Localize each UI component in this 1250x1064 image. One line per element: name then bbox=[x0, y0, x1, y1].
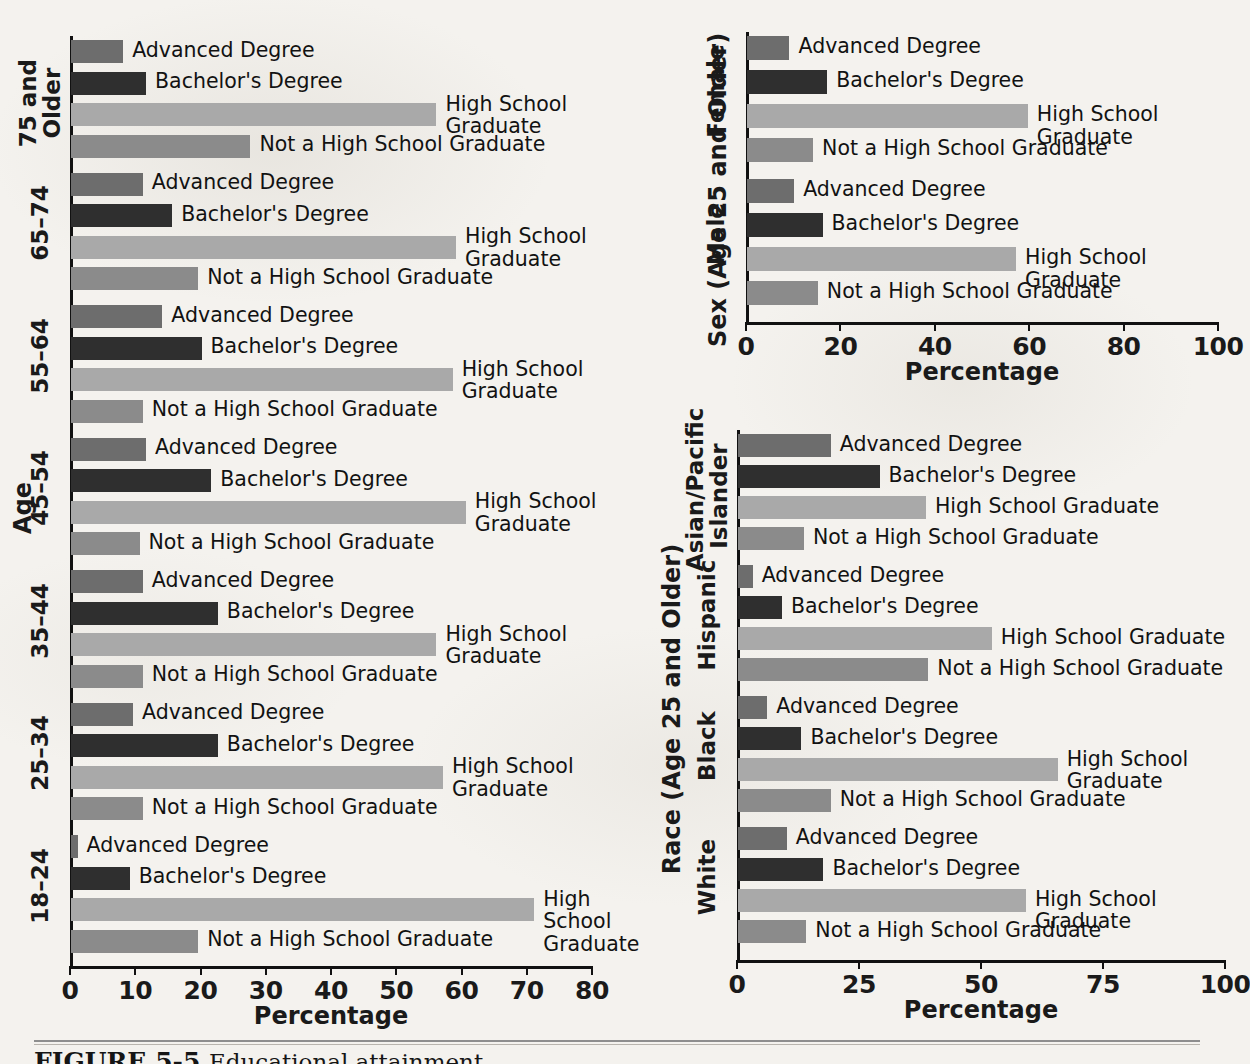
x-axis-tick-label: 100 bbox=[1200, 970, 1250, 999]
age-chart-x-axis-title: Percentage bbox=[254, 1002, 408, 1030]
x-axis-tick bbox=[265, 966, 267, 975]
bar-bachelors-degree bbox=[71, 72, 146, 95]
group-label-45-54: 45–54 bbox=[28, 413, 52, 563]
bar-advanced-degree bbox=[747, 179, 794, 203]
x-axis-tick bbox=[736, 960, 738, 969]
caption-rule-secondary bbox=[34, 1044, 1200, 1045]
bar-bachelors-degree bbox=[738, 596, 782, 619]
group-label-18-24: 18–24 bbox=[28, 811, 52, 961]
bar-label-not-a-high-school-graduate: Not a High School Graduate bbox=[822, 137, 1108, 160]
bar-label-not-a-high-school-graduate: Not a High School Graduate bbox=[937, 657, 1223, 680]
bar-bachelors-degree bbox=[71, 469, 211, 492]
x-axis-tick bbox=[395, 966, 397, 975]
x-axis-tick bbox=[526, 966, 528, 975]
bar-label-advanced-degree: Advanced Degree bbox=[796, 826, 978, 849]
bar-label-bachelors-degree: Bachelor's Degree bbox=[227, 600, 415, 623]
bar-label-high-school-graduate: High School Graduate bbox=[462, 358, 584, 404]
bar-label-bachelors-degree: Bachelor's Degree bbox=[181, 203, 369, 226]
bar-bachelors-degree bbox=[747, 213, 823, 237]
x-axis-tick-label: 0 bbox=[62, 976, 79, 1005]
x-axis-tick bbox=[134, 966, 136, 975]
x-axis-tick bbox=[858, 960, 860, 969]
bar-label-bachelors-degree: Bachelor's Degree bbox=[810, 726, 998, 749]
bar-label-bachelors-degree: Bachelor's Degree bbox=[139, 865, 327, 888]
x-axis-tick-label: 25 bbox=[842, 970, 876, 999]
x-axis-tick bbox=[330, 966, 332, 975]
x-axis-tick bbox=[745, 322, 747, 331]
bar-label-advanced-degree: Advanced Degree bbox=[142, 701, 324, 724]
bar-label-high-school-graduate: High School Graduate bbox=[475, 490, 597, 536]
group-label-75-and-older: 75 and Older bbox=[16, 28, 64, 178]
bar-advanced-degree bbox=[738, 565, 753, 588]
bar-label-advanced-degree: Advanced Degree bbox=[840, 433, 1022, 456]
race-chart-panel: 0255075100 Percentage Race (Age 25 and O… bbox=[620, 400, 1234, 1035]
x-axis-tick bbox=[1028, 322, 1030, 331]
bar-bachelors-degree bbox=[738, 727, 801, 750]
bar-advanced-degree bbox=[71, 570, 143, 593]
x-axis-tick-label: 70 bbox=[510, 976, 544, 1005]
x-axis-tick-label: 40 bbox=[918, 332, 952, 361]
bar-not-a-high-school-graduate bbox=[71, 797, 143, 820]
bar-label-advanced-degree: Advanced Degree bbox=[152, 171, 334, 194]
bar-advanced-degree bbox=[738, 696, 767, 719]
x-axis-tick-label: 20 bbox=[184, 976, 218, 1005]
bar-label-bachelors-degree: Bachelor's Degree bbox=[211, 335, 399, 358]
sex-chart-panel: 020406080100 Percentage Sex (Age 25 and … bbox=[620, 0, 1234, 390]
bar-label-bachelors-degree: Bachelor's Degree bbox=[220, 468, 408, 491]
bar-advanced-degree bbox=[71, 305, 162, 328]
bar-high-school-graduate bbox=[71, 898, 534, 921]
bar-label-not-a-high-school-graduate: Not a High School Graduate bbox=[207, 928, 493, 951]
group-label-asian-pacific-islander: Asian/Pacific Islander bbox=[683, 421, 731, 571]
x-axis-tick bbox=[1123, 322, 1125, 331]
bar-advanced-degree bbox=[71, 703, 133, 726]
bar-label-not-a-high-school-graduate: Not a High School Graduate bbox=[815, 919, 1101, 942]
sex-chart-x-axis-title: Percentage bbox=[905, 358, 1059, 386]
bar-label-bachelors-degree: Bachelor's Degree bbox=[155, 70, 343, 93]
x-axis-tick bbox=[1217, 322, 1219, 331]
bar-high-school-graduate bbox=[71, 766, 443, 789]
bar-label-not-a-high-school-graduate: Not a High School Graduate bbox=[207, 266, 493, 289]
bar-advanced-degree bbox=[747, 36, 789, 60]
bar-label-advanced-degree: Advanced Degree bbox=[798, 35, 980, 58]
bar-advanced-degree bbox=[738, 827, 787, 850]
x-axis-tick bbox=[1224, 960, 1226, 969]
bar-not-a-high-school-graduate bbox=[738, 658, 928, 681]
bar-not-a-high-school-graduate bbox=[71, 665, 143, 688]
bar-high-school-graduate bbox=[747, 104, 1028, 128]
bar-high-school-graduate bbox=[71, 633, 436, 656]
bar-bachelors-degree bbox=[71, 734, 218, 757]
x-axis-tick-label: 40 bbox=[314, 976, 348, 1005]
bar-not-a-high-school-graduate bbox=[738, 527, 804, 550]
bar-label-bachelors-degree: Bachelor's Degree bbox=[832, 212, 1020, 235]
bar-label-not-a-high-school-graduate: Not a High School Graduate bbox=[813, 526, 1099, 549]
bar-advanced-degree bbox=[71, 173, 143, 196]
x-axis-tick-label: 0 bbox=[738, 332, 755, 361]
figure-caption-text: Educational attainment bbox=[209, 1049, 483, 1064]
bar-label-advanced-degree: Advanced Degree bbox=[171, 304, 353, 327]
group-label-35-44: 35–44 bbox=[28, 546, 52, 696]
group-label-male: Male bbox=[704, 159, 728, 309]
x-axis-tick bbox=[980, 960, 982, 969]
bar-label-not-a-high-school-graduate: Not a High School Graduate bbox=[149, 531, 435, 554]
x-axis-tick-label: 80 bbox=[575, 976, 609, 1005]
bar-label-not-a-high-school-graduate: Not a High School Graduate bbox=[152, 663, 438, 686]
group-label-55-64: 55–64 bbox=[28, 281, 52, 431]
bar-high-school-graduate bbox=[738, 889, 1026, 912]
bar-bachelors-degree bbox=[738, 465, 880, 488]
figure-caption: FIGURE 5-5 Educational attainment bbox=[34, 1047, 483, 1064]
bar-not-a-high-school-graduate bbox=[71, 532, 140, 555]
bar-advanced-degree bbox=[71, 438, 146, 461]
x-axis-tick-label: 20 bbox=[823, 332, 857, 361]
bar-bachelors-degree bbox=[71, 204, 172, 227]
bar-label-not-a-high-school-graduate: Not a High School Graduate bbox=[152, 796, 438, 819]
x-axis-tick-label: 50 bbox=[379, 976, 413, 1005]
x-axis-tick bbox=[839, 322, 841, 331]
bar-label-bachelors-degree: Bachelor's Degree bbox=[791, 595, 979, 618]
bar-high-school-graduate bbox=[71, 236, 456, 259]
bar-advanced-degree bbox=[738, 434, 831, 457]
bar-high-school-graduate bbox=[738, 758, 1058, 781]
group-label-white: White bbox=[695, 802, 719, 952]
x-axis-tick-label: 100 bbox=[1193, 332, 1244, 361]
race-chart-x-axis-title: Percentage bbox=[904, 996, 1058, 1024]
